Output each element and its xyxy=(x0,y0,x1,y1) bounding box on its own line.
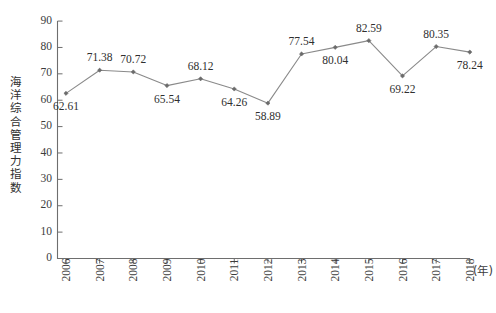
data-point-label: 70.72 xyxy=(120,53,146,65)
data-point-label-group: 62.6171.3870.7265.5468.1264.2658.8977.54… xyxy=(53,22,483,123)
x-axis-tick-label: 2009 xyxy=(161,258,173,281)
y-axis-title-char: 力 xyxy=(10,154,21,168)
data-point-label: 71.38 xyxy=(87,51,113,63)
y-axis-tick-label: 50 xyxy=(41,119,53,131)
data-point-label: 69.22 xyxy=(390,83,416,95)
data-point-label: 58.89 xyxy=(255,110,281,122)
data-point-label: 82.59 xyxy=(356,22,382,34)
x-axis-tick-label: 2013 xyxy=(296,258,308,281)
y-axis-title-char: 海 xyxy=(10,75,22,89)
y-axis-title-char: 指 xyxy=(10,167,21,181)
x-axis-tick-label: 2011 xyxy=(228,258,240,281)
x-axis-tick-label: 2006 xyxy=(60,258,72,281)
data-point-label: 77.54 xyxy=(289,35,315,47)
x-axis-tick-label: 2017 xyxy=(430,258,442,281)
data-point-marker xyxy=(199,77,203,81)
x-axis-tick-label: 2010 xyxy=(195,258,207,281)
y-axis-tick-label: 10 xyxy=(41,225,53,237)
x-axis-tick-label: 2008 xyxy=(127,258,139,281)
x-axis-tick-group: 2006200720082009201020112012201320142015… xyxy=(60,258,476,281)
x-axis-tick-label: 2014 xyxy=(329,258,341,281)
y-axis-tick-group: 0102030405060708090 xyxy=(41,14,63,263)
y-axis-tick-label: 0 xyxy=(46,251,52,263)
x-axis-tick-label: 2016 xyxy=(397,258,409,281)
y-axis-tick-label: 80 xyxy=(41,40,53,52)
y-axis-tick-label: 90 xyxy=(41,14,53,26)
y-axis-title: 海洋综合管理力指数 xyxy=(10,75,22,195)
y-axis-title-char: 数 xyxy=(10,181,22,195)
y-axis-tick-label: 40 xyxy=(41,146,53,158)
y-axis-tick-label: 30 xyxy=(41,172,53,184)
data-point-label: 68.12 xyxy=(188,60,214,72)
data-point-marker xyxy=(131,70,135,74)
line-chart: 海洋综合管理力指数 0102030405060708090 2006200720… xyxy=(0,0,496,313)
data-point-marker xyxy=(232,87,236,91)
y-axis-title-char: 管 xyxy=(10,128,21,142)
data-point-label: 64.26 xyxy=(221,96,247,108)
data-point-marker xyxy=(333,45,337,49)
data-point-label: 80.04 xyxy=(322,54,348,66)
y-axis-title-char: 综 xyxy=(10,101,22,115)
data-point-label: 62.61 xyxy=(53,100,79,112)
x-axis-tick-label: 2007 xyxy=(94,258,106,281)
data-point-label: 78.24 xyxy=(457,59,483,71)
x-axis-tick-label: 2012 xyxy=(262,258,274,281)
y-axis-title-char: 合 xyxy=(10,115,22,129)
data-point-marker xyxy=(165,84,169,88)
data-point-label: 65.54 xyxy=(154,93,180,105)
y-axis-title-char: 理 xyxy=(10,141,22,155)
y-axis-title-char: 洋 xyxy=(10,88,22,102)
x-axis-unit-label: (年) xyxy=(473,264,493,278)
chart-canvas: 海洋综合管理力指数 0102030405060708090 2006200720… xyxy=(0,0,496,313)
x-axis-tick-label: 2015 xyxy=(363,258,375,281)
data-point-marker xyxy=(468,50,472,54)
y-axis-tick-label: 60 xyxy=(41,93,53,105)
y-axis-tick-label: 20 xyxy=(41,198,53,210)
y-axis-tick-label: 70 xyxy=(41,66,53,78)
data-point-label: 80.35 xyxy=(423,28,449,40)
